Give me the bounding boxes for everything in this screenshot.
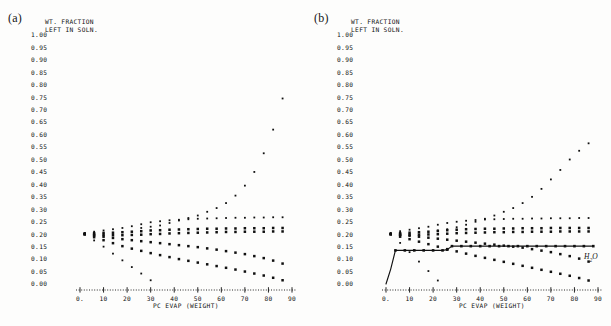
data-point: [535, 245, 538, 248]
data-point: [215, 248, 218, 251]
data-point: [437, 233, 440, 236]
x-tick-label: 70: [241, 295, 249, 302]
data-point: [122, 227, 124, 229]
y-tick-label: 0.45: [337, 168, 353, 175]
data-point: [512, 245, 515, 248]
data-point: [103, 230, 105, 232]
data-point: [253, 227, 256, 230]
data-point: [244, 270, 247, 273]
data-point: [592, 245, 595, 248]
data-point: [541, 188, 543, 190]
y-tick-label: 0.90: [31, 56, 47, 63]
data-point: [216, 217, 218, 219]
data-point: [550, 271, 553, 274]
data-point: [244, 185, 246, 187]
y-tick-label: 0.50: [337, 156, 353, 163]
data-point: [441, 249, 444, 252]
data-point: [225, 227, 228, 230]
data-point: [140, 230, 143, 233]
data-point: [93, 240, 95, 242]
data-point: [140, 250, 143, 253]
data-point: [253, 272, 256, 275]
data-point: [178, 258, 181, 261]
data-point: [150, 279, 152, 281]
y-tick-label: 0.25: [337, 218, 353, 225]
data-point: [521, 265, 524, 268]
data-series: [83, 233, 283, 265]
data-point: [559, 217, 561, 219]
data-point: [140, 233, 143, 236]
data-point: [131, 266, 133, 268]
data-point: [272, 259, 275, 262]
data-point: [112, 234, 115, 237]
y-tick-label: 0.60: [31, 131, 47, 138]
y-tick-label: 0.95: [337, 44, 353, 51]
y-tick-label: 0.20: [31, 231, 47, 238]
data-point: [102, 239, 105, 242]
y-tick-label: 0.35: [337, 193, 353, 200]
data-point: [484, 231, 487, 234]
data-point: [474, 228, 477, 231]
data-point: [131, 230, 134, 233]
data-point: [131, 234, 134, 237]
data-point: [404, 249, 407, 252]
data-point: [159, 220, 161, 222]
x-tick-label: 90: [288, 295, 296, 302]
data-point: [455, 239, 458, 242]
x-tick-label: 90: [594, 295, 602, 302]
data-point: [272, 230, 275, 233]
data-point: [493, 218, 495, 220]
y-tick-label: 0.15: [31, 243, 47, 250]
data-point: [559, 230, 562, 233]
x-tick-label: 60: [217, 295, 225, 302]
data-point: [531, 227, 534, 230]
data-point: [512, 218, 514, 220]
data-point: [484, 219, 486, 221]
data-point: [187, 218, 189, 220]
data-point: [503, 244, 506, 247]
data-point: [149, 229, 152, 232]
y-tick-label: 0.75: [31, 94, 47, 101]
data-point: [456, 226, 458, 228]
data-point: [159, 229, 162, 232]
data-series: [140, 98, 283, 229]
x-tick-label: 50: [500, 295, 508, 302]
data-point: [168, 243, 171, 246]
data-point: [475, 221, 477, 223]
y-tick-label: 0.20: [337, 231, 353, 238]
x-tick-label: 50: [194, 295, 202, 302]
data-point: [540, 269, 543, 272]
data-series: [386, 245, 595, 284]
data-point: [178, 219, 180, 221]
data-point: [235, 195, 237, 197]
data-point: [225, 217, 227, 219]
x-tick-label: 40: [476, 295, 484, 302]
data-point: [455, 232, 458, 235]
data-point: [234, 268, 237, 271]
y-tick-label: 0.00: [337, 280, 353, 287]
data-point: [197, 218, 199, 220]
data-point: [512, 207, 514, 209]
data-point: [568, 230, 571, 233]
data-point: [465, 240, 468, 243]
data-point: [568, 275, 571, 278]
x-tick-label: 30: [453, 295, 461, 302]
data-point: [150, 221, 152, 223]
data-point: [427, 236, 430, 239]
data-point: [399, 235, 402, 238]
data-point: [235, 217, 237, 219]
y-tick-label: 0.10: [31, 255, 47, 262]
data-point: [168, 232, 171, 235]
data-point: [578, 230, 581, 233]
data-point: [197, 215, 199, 217]
y-tick-label: 0.95: [31, 44, 47, 51]
data-point: [550, 251, 553, 254]
data-point: [507, 245, 510, 248]
x-tick-label: 10: [406, 295, 414, 302]
data-point: [84, 233, 86, 235]
data-point: [470, 245, 473, 248]
data-point: [474, 255, 477, 257]
data-point: [197, 246, 200, 249]
data-point: [503, 261, 506, 264]
y-tick-label: 0.50: [31, 156, 47, 163]
